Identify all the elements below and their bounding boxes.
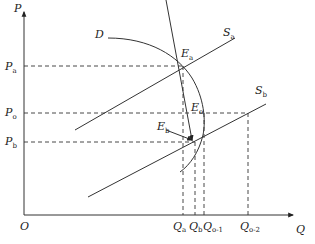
po-label: Po — [4, 106, 17, 121]
demand-label: D — [94, 28, 104, 41]
pb-label: Pb — [4, 135, 17, 150]
qb-label: Qb — [189, 220, 203, 234]
q-axis-label: Q — [296, 223, 305, 236]
p-axis-label: P — [13, 2, 22, 15]
qa-label: Qa — [173, 220, 186, 234]
eb-pointer-arrow — [166, 0, 192, 140]
eb-pointer-arrow — [166, 130, 192, 140]
supply-curve-a — [75, 38, 235, 130]
qo1-label: Qo-1 — [203, 220, 223, 234]
eo-label: Eo — [190, 101, 203, 116]
ea-label: Ea — [180, 47, 193, 62]
pa-label: Pa — [4, 60, 17, 75]
eb-label: Eb — [156, 120, 170, 135]
supply-curve-b — [88, 104, 266, 197]
origin-label: O — [20, 220, 29, 233]
supply-demand-diagram: P Q O Pa Po Pb Qa Qb Qo-1 Qo-2 D Sa Sb E… — [0, 0, 315, 244]
supply-b-label: Sb — [255, 84, 268, 99]
supply-a-label: Sa — [223, 26, 235, 41]
qo2-label: Qo-2 — [240, 220, 260, 234]
